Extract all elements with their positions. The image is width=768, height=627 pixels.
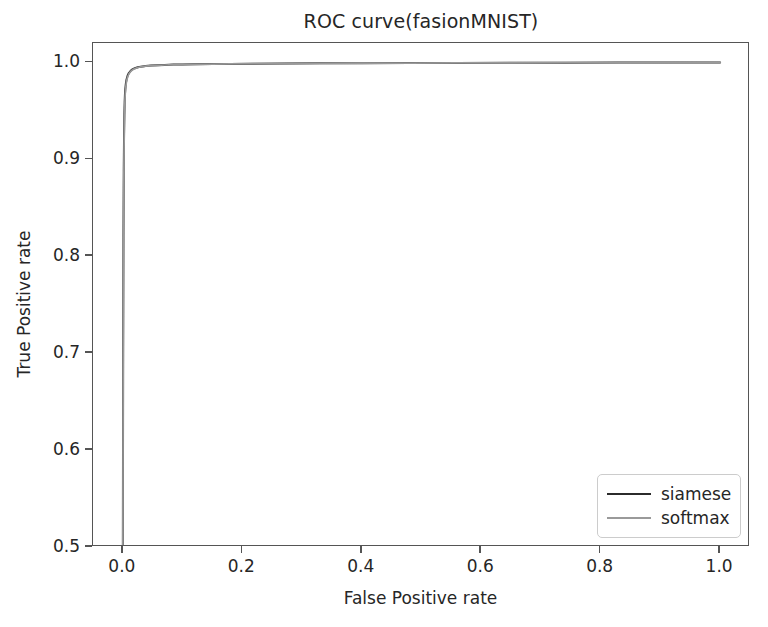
y-axis-label: True Positive rate	[14, 194, 34, 414]
chart-legend: siamesesoftmax	[597, 474, 741, 538]
x-tick-mark	[241, 546, 243, 553]
y-tick-mark	[85, 545, 92, 547]
x-tick-label: 0.0	[92, 556, 152, 576]
x-tick-mark	[718, 546, 720, 553]
y-tick-label: 0.9	[36, 148, 80, 168]
x-tick-mark	[121, 546, 123, 553]
legend-line-swatch	[607, 512, 651, 524]
roc-curve-figure: ROC curve(fasionMNIST) 0.50.60.70.80.91.…	[0, 0, 768, 627]
x-tick-label: 0.8	[570, 556, 630, 576]
y-tick-label: 0.5	[36, 536, 80, 556]
y-tick-label: 0.6	[36, 439, 80, 459]
y-tick-label: 0.7	[36, 342, 80, 362]
plot-svg	[93, 43, 749, 546]
x-axis-label: False Positive rate	[92, 588, 749, 608]
y-tick-label: 0.8	[36, 245, 80, 265]
plot-area	[92, 42, 749, 546]
legend-line-swatch	[607, 488, 651, 500]
x-tick-mark	[599, 546, 601, 553]
x-tick-mark	[360, 546, 362, 553]
x-tick-mark	[479, 546, 481, 553]
y-tick-mark	[85, 158, 92, 160]
x-tick-label: 0.4	[331, 556, 391, 576]
x-tick-label: 0.6	[450, 556, 510, 576]
legend-item-siamese: siamese	[607, 482, 731, 506]
x-tick-label: 1.0	[689, 556, 749, 576]
y-tick-mark	[85, 61, 92, 63]
legend-label: siamese	[661, 484, 731, 504]
y-tick-mark	[85, 448, 92, 450]
legend-label: softmax	[661, 508, 730, 528]
x-tick-label: 0.2	[211, 556, 271, 576]
y-tick-label: 1.0	[36, 51, 80, 71]
y-tick-mark	[85, 254, 92, 256]
y-tick-mark	[85, 351, 92, 353]
legend-item-softmax: softmax	[607, 506, 731, 530]
page-title: ROC curve(fasionMNIST)	[92, 10, 750, 32]
